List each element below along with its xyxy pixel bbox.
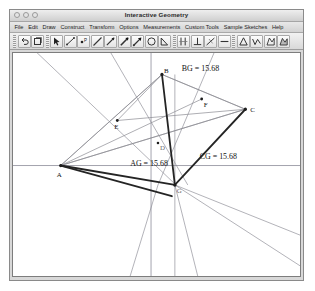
sketch-canvas-area: A B C E F D G BG = 15.68 AG = 15.68 CG =… xyxy=(10,50,303,280)
window-title: Interactive Geometry xyxy=(10,11,303,18)
triangle-icon xyxy=(238,36,249,47)
region-tool-button[interactable] xyxy=(277,35,290,48)
point-label-G: G xyxy=(177,187,182,195)
menu-item-file[interactable]: File xyxy=(12,22,26,33)
point-label-E: E xyxy=(114,123,118,131)
menu-bar: File Edit Draw Construct Transform Optio… xyxy=(10,22,303,33)
midpoint-tool-button[interactable] xyxy=(204,35,217,48)
application-window: Interactive Geometry File Edit Draw Cons… xyxy=(9,9,304,281)
ray-tool-button[interactable] xyxy=(104,35,117,48)
point-D xyxy=(157,142,160,145)
point-label-D: D xyxy=(160,144,165,152)
point-A xyxy=(59,164,62,167)
segment-tool-button[interactable] xyxy=(64,35,77,48)
arrow-icon xyxy=(132,36,143,47)
measurement-AG: AG = 15.68 xyxy=(130,158,168,167)
menu-item-construct[interactable]: Construct xyxy=(58,22,87,33)
ray-icon xyxy=(105,36,116,47)
toolbar: P xyxy=(10,33,303,50)
median-segments xyxy=(61,74,246,196)
segment-icon xyxy=(65,36,76,47)
polygon-tool-button[interactable] xyxy=(264,35,277,48)
parallel-tool-button[interactable] xyxy=(177,35,190,48)
line-tool-button[interactable] xyxy=(91,35,104,48)
select-tool-button[interactable] xyxy=(50,35,63,48)
arrow-select-icon xyxy=(51,36,62,47)
menu-item-custom-tools[interactable]: Custom Tools xyxy=(183,22,222,33)
point-F xyxy=(200,98,203,101)
geometry-figure[interactable]: A B C E F D G BG = 15.68 AG = 15.68 CG =… xyxy=(13,53,300,276)
menu-item-draw[interactable]: Draw xyxy=(40,22,58,33)
menu-item-measurements[interactable]: Measurements xyxy=(141,22,183,33)
menu-item-edit[interactable]: Edit xyxy=(26,22,40,33)
svg-text:P: P xyxy=(84,38,87,43)
region-icon xyxy=(278,36,289,47)
midpoint-icon xyxy=(205,36,216,47)
arrow-tool-button[interactable] xyxy=(131,35,144,48)
segment-BG xyxy=(162,74,175,184)
redo-button[interactable] xyxy=(31,35,44,48)
length-icon xyxy=(219,36,230,47)
menu-item-transform[interactable]: Transform xyxy=(87,22,117,33)
point-C xyxy=(244,108,247,111)
measurement-CG: CG = 15.68 xyxy=(200,152,237,161)
undo-icon xyxy=(19,36,30,47)
menu-item-help[interactable]: Help xyxy=(270,22,286,33)
circle-icon xyxy=(146,36,157,47)
measurement-labels[interactable]: BG = 15.68 AG = 15.68 CG = 15.68 xyxy=(130,64,237,167)
vector-tool-button[interactable] xyxy=(118,35,131,48)
menu-item-sample-sketches[interactable]: Sample Sketches xyxy=(221,22,269,33)
toolbar-grip-draw[interactable] xyxy=(46,35,49,48)
redo-icon xyxy=(32,36,43,47)
window-title-bar: Interactive Geometry xyxy=(10,10,303,22)
point-E xyxy=(116,119,119,122)
toolbar-grip-construct[interactable] xyxy=(173,35,176,48)
toolbar-grip-polygons[interactable] xyxy=(232,35,235,48)
polygon-icon xyxy=(265,36,276,47)
line-icon xyxy=(92,36,103,47)
menu-item-options[interactable]: Options xyxy=(117,22,141,33)
angle-tool-button[interactable] xyxy=(158,35,171,48)
point-label-B: B xyxy=(164,67,169,75)
point-tool-button[interactable]: P xyxy=(77,35,90,48)
point-label-A: A xyxy=(57,171,63,179)
measurement-BG: BG = 15.68 xyxy=(182,64,219,73)
parallel-lines-icon xyxy=(178,36,189,47)
length-tool-button[interactable] xyxy=(218,35,231,48)
polyline-icon xyxy=(251,36,262,47)
angle-icon xyxy=(159,36,170,47)
perpendicular-tool-button[interactable] xyxy=(191,35,204,48)
perpendicular-icon xyxy=(192,36,203,47)
toolbar-grip-history[interactable] xyxy=(13,35,16,48)
circle-tool-button[interactable] xyxy=(145,35,158,48)
point-icon: P xyxy=(78,36,89,47)
point-label-F: F xyxy=(204,101,208,109)
polyline-tool-button[interactable] xyxy=(250,35,263,48)
vector-icon xyxy=(119,36,130,47)
undo-button[interactable] xyxy=(18,35,31,48)
triangle-tool-button[interactable] xyxy=(237,35,250,48)
point-label-C: C xyxy=(250,106,255,114)
sketch-canvas[interactable]: A B C E F D G BG = 15.68 AG = 15.68 CG =… xyxy=(12,52,301,277)
